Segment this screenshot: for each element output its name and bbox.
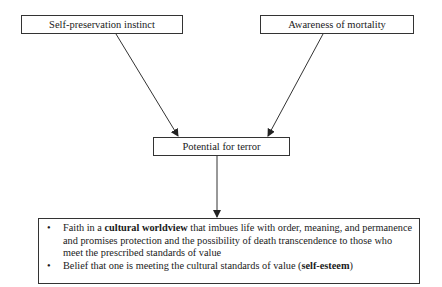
arrow-awareness-to-terror [268, 34, 323, 136]
buffer-item-self-esteem: Belief that one is meeting the cultural … [47, 260, 413, 273]
node-self-preservation: Self-preservation instinct [21, 15, 183, 34]
node-anxiety-buffer: Faith in a cultural worldview that imbue… [38, 218, 420, 284]
arrow-self-to-terror [116, 34, 178, 136]
node-awareness-of-mortality: Awareness of mortality [260, 15, 414, 34]
node-label: Awareness of mortality [288, 19, 386, 30]
text: Faith in a [63, 222, 104, 233]
node-label: Potential for terror [182, 141, 260, 152]
bold-term: cultural worldview [104, 222, 187, 233]
text: ) [350, 260, 353, 271]
text: Belief that one is meeting the cultural … [63, 260, 301, 271]
buffer-item-worldview: Faith in a cultural worldview that imbue… [47, 222, 413, 260]
bold-term: self-esteem [301, 260, 349, 271]
buffer-list: Faith in a cultural worldview that imbue… [47, 222, 413, 272]
node-label: Self-preservation instinct [49, 19, 155, 30]
node-potential-for-terror: Potential for terror [153, 137, 290, 156]
